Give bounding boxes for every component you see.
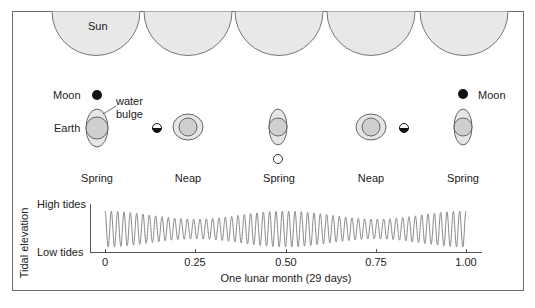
new-moon-icon — [92, 90, 102, 100]
earth-moon-spring-1 — [86, 90, 108, 147]
new-moon-icon — [458, 89, 468, 99]
x-tick-label: 0 — [102, 256, 108, 268]
earth-moon-spring-3 — [454, 89, 472, 145]
sun-icon — [327, 12, 415, 56]
sun-icon — [420, 12, 508, 56]
moon-label: Moon — [478, 89, 506, 101]
phase-label-neap: Neap — [175, 172, 201, 184]
y-tick-low: Low tides — [37, 246, 84, 258]
y-axis-title: Tidal elevation — [18, 208, 30, 279]
earth-icon — [454, 118, 472, 136]
water-bulge-label: water — [115, 95, 143, 107]
earth-moon-neap-1 — [153, 114, 204, 140]
water-bulge-label: bulge — [116, 108, 143, 120]
phase-label-spring: Spring — [81, 172, 113, 184]
x-axis-title: One lunar month (29 days) — [221, 272, 352, 284]
earth-icon — [362, 118, 380, 136]
x-tick-label: 1.00 — [455, 256, 476, 268]
sun-icon — [235, 12, 323, 56]
earth-label: Earth — [54, 122, 80, 134]
tide-chart: Tidal elevation High tides Low tides 0 0… — [18, 198, 482, 284]
earth-icon — [269, 118, 287, 136]
sun-label: Sun — [88, 20, 108, 32]
earth-moon-neap-2 — [356, 114, 409, 140]
x-tick-label: 0.75 — [365, 256, 386, 268]
earth-icon — [179, 118, 197, 136]
earth-moon-spring-2 — [269, 109, 287, 164]
full-moon-icon — [274, 155, 283, 164]
earth-icon — [86, 117, 108, 139]
x-tick-label: 0.50 — [275, 256, 296, 268]
quarter-moon-icon — [400, 124, 409, 133]
phase-label-neap: Neap — [358, 172, 384, 184]
water-bulge-pointer — [103, 106, 116, 114]
quarter-moon-icon — [153, 124, 162, 133]
moon-label: Moon — [53, 89, 81, 101]
x-tick-label: 0.25 — [184, 256, 205, 268]
tide-line — [105, 211, 466, 247]
sun-icon — [144, 12, 232, 56]
sun-row — [52, 12, 508, 56]
spring-neap-tides-diagram: Sun Moon Earth water bulge — [0, 0, 535, 308]
y-tick-high: High tides — [37, 198, 86, 210]
phase-label-spring: Spring — [263, 172, 295, 184]
sun-icon — [52, 12, 140, 56]
phase-label-spring: Spring — [447, 172, 479, 184]
